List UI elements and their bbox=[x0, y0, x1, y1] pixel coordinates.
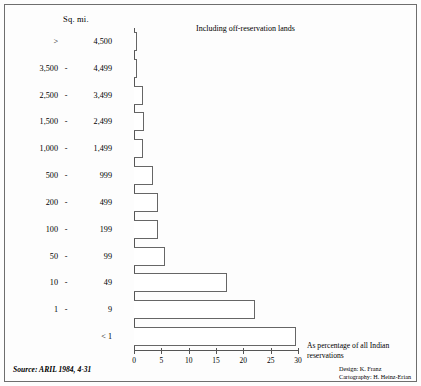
x-axis-tick bbox=[189, 348, 190, 354]
category-range-dash: - bbox=[58, 198, 74, 207]
x-axis-tick bbox=[134, 348, 135, 354]
category-lower-bound: 1,500 bbox=[16, 117, 58, 126]
category-range-dash: - bbox=[58, 305, 74, 314]
design-credit: Design: K. Franz bbox=[339, 365, 411, 373]
bar bbox=[134, 59, 137, 78]
x-axis-tick-label: 25 bbox=[267, 356, 275, 365]
bar bbox=[134, 193, 158, 212]
category-upper-bound: 499 bbox=[74, 198, 112, 207]
plot-area bbox=[134, 28, 298, 350]
category-label-row: 1,000-1,499 bbox=[16, 135, 128, 162]
category-range-dash: - bbox=[58, 91, 74, 100]
category-label-row: 1-9 bbox=[16, 296, 128, 323]
category-upper-bound: 1,499 bbox=[74, 144, 112, 153]
category-upper-bound: 199 bbox=[74, 225, 112, 234]
bar bbox=[134, 247, 165, 266]
x-axis-tick-label: 30 bbox=[294, 356, 302, 365]
category-upper-bound: 49 bbox=[74, 278, 112, 287]
category-label-row: 10-49 bbox=[16, 270, 128, 297]
x-axis-tick-label: 5 bbox=[159, 356, 163, 365]
bar bbox=[134, 300, 255, 319]
category-label-row: 200-499 bbox=[16, 189, 128, 216]
bar bbox=[134, 112, 144, 131]
cartography-credit: Cartography: H. Heinz-Erian bbox=[339, 373, 411, 381]
category-lower-bound: 1,000 bbox=[16, 144, 58, 153]
category-lower-bound: 10 bbox=[16, 278, 58, 287]
category-lower-bound: 3,500 bbox=[16, 64, 58, 73]
category-upper-bound: 2,499 bbox=[74, 117, 112, 126]
bar bbox=[134, 166, 153, 185]
category-upper-bound: 99 bbox=[74, 252, 112, 261]
category-lower-bound: 1 bbox=[16, 305, 58, 314]
category-lower-bound: 200 bbox=[16, 198, 58, 207]
category-upper-bound: 3,499 bbox=[74, 91, 112, 100]
category-label-row: 100-199 bbox=[16, 216, 128, 243]
category-label-row: 3,500-4,499 bbox=[16, 55, 128, 82]
category-upper-bound: 9 bbox=[74, 305, 112, 314]
x-axis-tick bbox=[243, 348, 244, 354]
category-lower-bound: 100 bbox=[16, 225, 58, 234]
bar bbox=[134, 32, 137, 51]
chart-figure: Sq. mi. Including off-reservation lands … bbox=[0, 0, 421, 386]
category-range-dash: - bbox=[58, 252, 74, 261]
bar bbox=[134, 327, 296, 346]
x-axis-tick-label: 15 bbox=[212, 356, 220, 365]
category-label-row: 1,500-2,499 bbox=[16, 109, 128, 136]
bar bbox=[134, 139, 143, 158]
category-range-dash: - bbox=[58, 64, 74, 73]
x-axis-tick-label: 20 bbox=[240, 356, 248, 365]
category-label-row: >4,500 bbox=[16, 28, 128, 55]
category-range-dash: - bbox=[58, 144, 74, 153]
x-axis-tick bbox=[216, 348, 217, 354]
category-upper-bound: 4,499 bbox=[74, 64, 112, 73]
category-range-dash: - bbox=[58, 225, 74, 234]
x-axis-tick-label: 0 bbox=[132, 356, 136, 365]
category-upper-bound: 999 bbox=[74, 171, 112, 180]
bar bbox=[134, 86, 143, 105]
source-text: Source: ARIL 1984, 4-31 bbox=[13, 365, 91, 374]
category-label-row: 2,500-3,499 bbox=[16, 82, 128, 109]
category-range-dash: - bbox=[58, 171, 74, 180]
category-label-row: 500-999 bbox=[16, 162, 128, 189]
x-axis: 051015202530 bbox=[134, 350, 300, 366]
category-label-row: 50-99 bbox=[16, 243, 128, 270]
x-axis-tick bbox=[298, 348, 299, 354]
category-lower-bound: > bbox=[16, 37, 58, 46]
x-axis-tick bbox=[271, 348, 272, 354]
credits-block: Design: K. Franz Cartography: H. Heinz-E… bbox=[339, 365, 411, 380]
category-range-dash: - bbox=[58, 278, 74, 287]
bar bbox=[134, 273, 227, 292]
category-upper-bound: 4,500 bbox=[74, 37, 112, 46]
x-axis-note: As percentage of all Indian reservations bbox=[307, 341, 407, 360]
bar bbox=[134, 220, 158, 239]
category-label-row: < 1 bbox=[16, 323, 128, 350]
category-lower-bound: 2,500 bbox=[16, 91, 58, 100]
x-axis-tick-label: 10 bbox=[185, 356, 193, 365]
category-lower-bound: 500 bbox=[16, 171, 58, 180]
category-upper-bound: < 1 bbox=[74, 332, 112, 341]
y-axis-unit-label: Sq. mi. bbox=[63, 14, 89, 24]
x-axis-tick bbox=[161, 348, 162, 354]
category-lower-bound: 50 bbox=[16, 252, 58, 261]
category-label-column: >4,5003,500-4,4992,500-3,4991,500-2,4991… bbox=[16, 28, 128, 350]
category-range-dash: - bbox=[58, 117, 74, 126]
